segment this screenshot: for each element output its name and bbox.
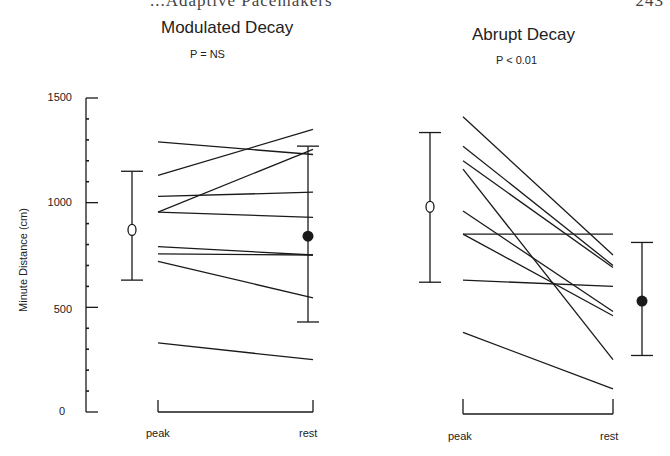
y-axis xyxy=(86,98,98,412)
subject-line xyxy=(158,212,313,217)
subject-line xyxy=(158,261,313,298)
panel-abrupt-decay xyxy=(419,117,653,414)
subject-line xyxy=(463,146,613,265)
mean-open-circle-peak xyxy=(128,224,136,235)
subject-line xyxy=(463,280,613,286)
subject-line xyxy=(463,234,613,316)
chart-canvas xyxy=(0,0,670,456)
mean-filled-circle-rest xyxy=(637,296,648,307)
subject-line xyxy=(463,211,613,311)
mean-open-circle-peak xyxy=(426,201,434,212)
mean-filled-circle-rest xyxy=(303,231,314,242)
subject-line xyxy=(463,161,613,268)
subject-line xyxy=(158,343,313,360)
subject-line xyxy=(158,192,313,196)
subject-line xyxy=(463,332,613,389)
subject-line xyxy=(158,149,313,212)
panel-modulated-decay xyxy=(121,129,319,412)
subject-line xyxy=(463,169,613,359)
